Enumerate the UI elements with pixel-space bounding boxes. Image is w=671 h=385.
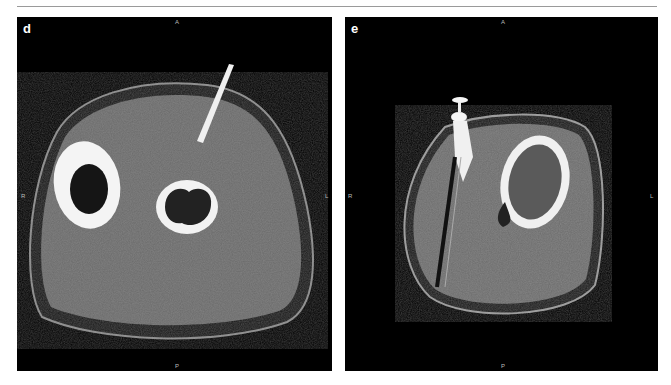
orientation-anterior: A [501,19,505,25]
orientation-posterior: P [501,363,505,369]
panel-label: e [351,21,358,36]
orientation-right: R [21,193,25,199]
orientation-right: R [348,193,352,199]
top-rule [17,6,657,7]
ct-image-d [17,17,332,371]
panel-d: d A P R L [17,17,332,371]
panel-label: d [23,21,31,36]
ct-image-e [345,17,658,371]
orientation-posterior: P [175,363,179,369]
panel-e: e A P R L [345,17,658,371]
orientation-anterior: A [175,19,179,25]
orientation-left: L [325,193,328,199]
orientation-left: L [650,193,653,199]
